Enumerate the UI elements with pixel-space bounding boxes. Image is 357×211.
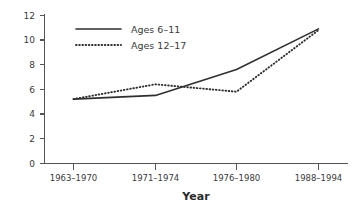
x-axis-ticks [74,164,319,171]
x-axis-title: Year [181,190,210,203]
x-tick-label: 1988–1994 [295,173,343,183]
x-tick-label: 1976–1980 [213,173,261,183]
y-tick-label: 4 [29,109,35,119]
y-tick-label: 8 [29,60,35,70]
legend-label: Ages 12–17 [131,40,186,51]
x-tick-label: 1971–1974 [132,173,180,183]
y-tick-label: 0 [29,159,35,169]
y-tick-label: 6 [29,85,35,95]
y-tick-label: 2 [29,134,35,144]
chart-legend: Ages 6–11 Ages 12–17 [76,24,186,51]
y-axis-tick-labels: 12 10 8 6 4 2 0 [24,11,36,169]
x-tick-label: 1963–1970 [50,173,98,183]
series-line-ages-12-17 [74,30,319,99]
y-tick-label: 10 [24,35,36,45]
line-chart: 12 10 8 6 4 2 0 1963–1970 1971–1974 1976… [0,0,357,211]
y-tick-label: 12 [24,11,35,21]
legend-label: Ages 6–11 [131,24,180,35]
chart-canvas: 12 10 8 6 4 2 0 1963–1970 1971–1974 1976… [0,0,357,211]
x-axis-tick-labels: 1963–1970 1971–1974 1976–1980 1988–1994 [50,173,343,183]
